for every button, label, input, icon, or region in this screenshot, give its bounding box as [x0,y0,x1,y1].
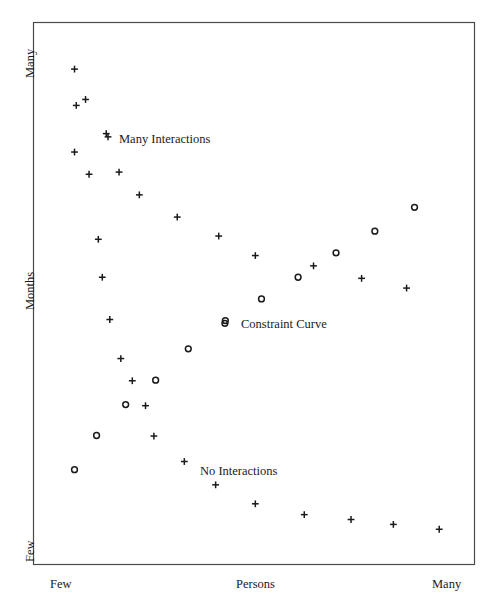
x-axis-title: Persons [236,578,275,591]
data-point-circle [185,346,191,352]
data-point-plus [358,275,365,282]
data-point-circle [333,250,339,256]
annotation-no-interactions: No Interactions [200,465,277,478]
data-point-plus [174,214,181,221]
data-point-plus [71,66,78,73]
data-point-plus [181,458,188,465]
data-point-plus [212,481,219,488]
y-axis-label-many: Many [24,49,37,78]
y-axis-title: Months [24,272,37,310]
data-point-circle [123,402,129,408]
data-point-plus [215,233,222,240]
data-point-plus [86,171,93,178]
data-point-plus [252,252,259,259]
data-point-plus [95,236,102,243]
scatter-chart: Many Months Few Few Persons Many Many In… [0,0,497,615]
data-point-plus [310,262,317,269]
data-point-plus [436,526,443,533]
annotation-many-interactions: Many Interactions [119,133,210,146]
data-point-circle [372,228,378,234]
data-point-plus [348,516,355,523]
data-point-plus [82,96,89,103]
data-point-plus [106,316,113,323]
data-point-plus [99,274,106,281]
data-point-plus [117,355,124,362]
data-point-circle [153,377,159,383]
data-point-plus [390,521,397,528]
annotation-constraint-curve: Constraint Curve [241,318,327,331]
x-axis-label-many: Many [432,578,461,591]
plot-frame [34,23,475,565]
data-point-plus [301,511,308,518]
data-point-circle [412,204,418,210]
data-point-plus [142,402,149,409]
annotation-markers [103,130,228,323]
data-point-plus [252,500,259,507]
data-point-plus [150,433,157,440]
series-constraint-curve [72,204,418,472]
plot-canvas [0,0,497,615]
data-point-circle [295,274,301,280]
data-point-circle [259,296,265,302]
x-axis-label-few: Few [50,578,72,591]
y-axis-label-few: Few [24,540,37,562]
data-point-plus [403,285,410,292]
data-point-circle [94,433,100,439]
data-point-plus [116,169,123,176]
data-point-circle [72,467,78,473]
data-point-plus [136,191,143,198]
data-point-plus [73,102,80,109]
data-point-plus [71,149,78,156]
data-point-plus [129,377,136,384]
